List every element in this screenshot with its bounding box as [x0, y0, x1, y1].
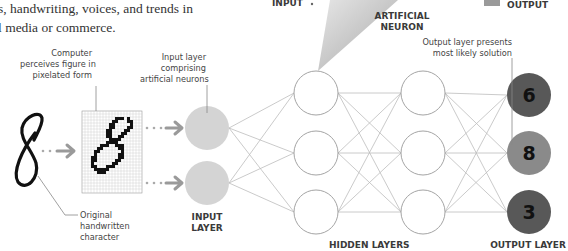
- output-value-2: 8: [507, 131, 551, 175]
- original-char-leader: [38, 176, 78, 215]
- note-line: most likely solution: [420, 48, 512, 59]
- top-output-arrow-icon: [484, 0, 500, 6]
- connections-hidden-hidden: [338, 93, 401, 212]
- artificial-neuron-label: ARTIFICIAL NEURON: [370, 11, 434, 33]
- note-line: Computer: [20, 48, 92, 59]
- hidden1-neuron-2: [294, 131, 338, 175]
- arrow-grid-to-input-2: [146, 177, 182, 189]
- input-layer-label-line2: LAYER: [182, 223, 232, 234]
- connections-hidden-output: [445, 93, 507, 212]
- output-layer-note: Output layer presents most likely soluti…: [420, 37, 512, 59]
- arrow-char-to-grid: [42, 145, 74, 157]
- input-layer-label: INPUT LAYER: [182, 212, 232, 234]
- hidden1-neuron-1: [294, 71, 338, 115]
- top-output-label: OUTPUT: [507, 0, 548, 11]
- hidden2-neuron-2: [401, 131, 445, 175]
- arrow-grid-to-input-1: [146, 122, 182, 134]
- hidden-layers-label: HIDDEN LAYERS: [329, 240, 409, 251]
- original-character-note: Original handwritten character: [80, 210, 130, 243]
- intro-text-line2: l media or commerce.: [0, 19, 116, 36]
- hidden2-neuron-1: [401, 71, 445, 115]
- computer-perceives-note: Computer perceives figure in pixelated f…: [20, 48, 92, 81]
- note-line: artificial neurons: [140, 74, 206, 85]
- input-layer-note: Input layer comprising artificial neuron…: [140, 52, 206, 85]
- input-layer-label-line1: INPUT: [182, 212, 232, 223]
- note-line: character: [80, 232, 130, 243]
- intro-text-line1: s, handwriting, voices, and trends in: [0, 0, 193, 17]
- input-neuron-2: [185, 161, 229, 205]
- note-line: Output layer presents: [420, 37, 512, 48]
- note-line: pixelated form: [20, 70, 92, 81]
- hidden1-neuron-3: [294, 190, 338, 234]
- artificial-neuron-line2: NEURON: [370, 22, 434, 33]
- handwritten-eight: [16, 114, 42, 185]
- top-input-label: INPUT: [272, 0, 303, 9]
- note-line: Input layer: [140, 52, 206, 63]
- top-input-dot: [311, 3, 313, 5]
- pixel-grid: [82, 111, 142, 193]
- note-line: Original: [80, 210, 130, 221]
- note-line: comprising: [140, 63, 206, 74]
- note-line: handwritten: [80, 221, 130, 232]
- hidden2-neuron-3: [401, 190, 445, 234]
- note-line: perceives figure in: [20, 59, 92, 70]
- artificial-neuron-line1: ARTIFICIAL: [370, 11, 434, 22]
- output-value-1: 6: [507, 73, 551, 117]
- connections-input-hidden: [229, 93, 294, 212]
- output-value-3: 3: [507, 190, 551, 234]
- output-layer-label: OUTPUT LAYER: [488, 240, 568, 251]
